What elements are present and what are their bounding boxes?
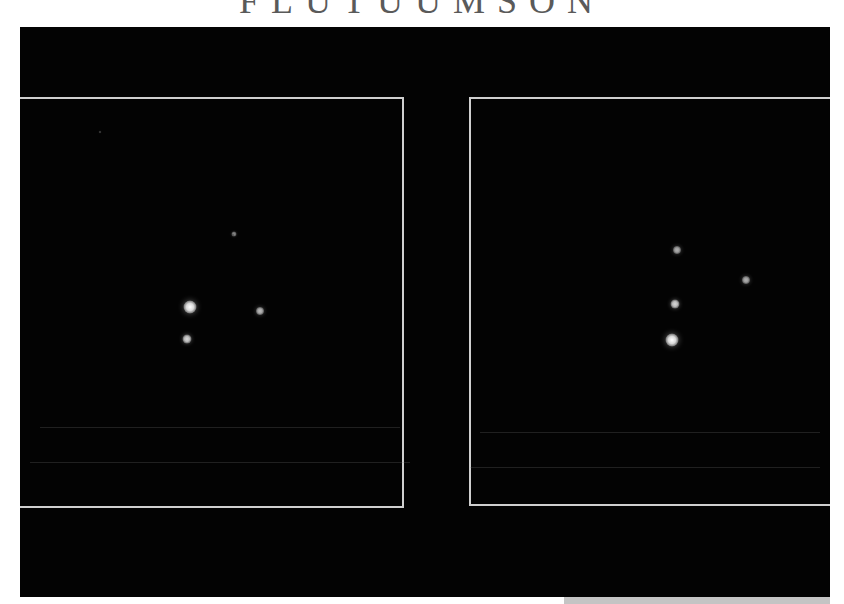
star-right-panel xyxy=(742,276,750,284)
scan-noise-line xyxy=(470,467,820,468)
star-left-panel xyxy=(232,234,234,236)
scan-noise-line xyxy=(480,432,820,433)
photographic-plate xyxy=(20,27,830,597)
star-left-panel xyxy=(99,131,101,133)
star-right-panel xyxy=(666,334,679,347)
star-left-panel xyxy=(256,307,264,315)
star-right-panel xyxy=(671,300,680,309)
scan-edge-bar xyxy=(564,597,830,604)
star-right-panel xyxy=(673,246,681,254)
left-image-frame xyxy=(20,97,404,508)
page-title: FLUTUUMSON xyxy=(0,0,844,16)
star-left-panel xyxy=(183,335,192,344)
right-image-frame xyxy=(469,97,830,506)
scan-noise-line xyxy=(40,427,400,428)
page-title-clipped: FLUTUUMSON xyxy=(0,0,844,16)
star-left-panel xyxy=(184,301,197,314)
scan-noise-line xyxy=(30,462,410,463)
